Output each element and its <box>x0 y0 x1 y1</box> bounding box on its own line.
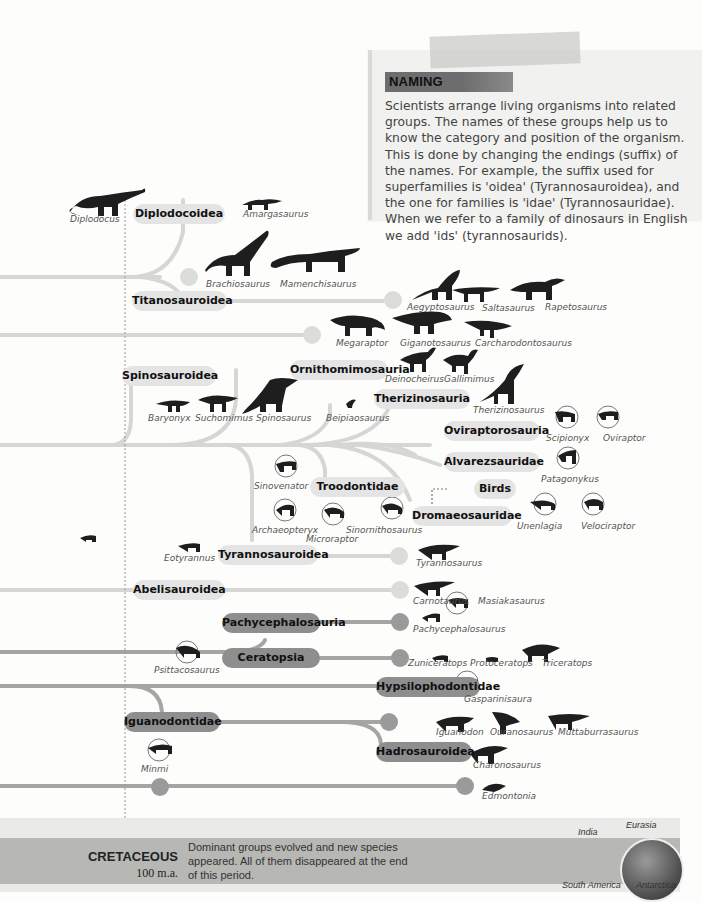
species-amargasaurus: Amargasaurus <box>243 209 308 219</box>
species-therizinosaurus: Therizinosaurus <box>473 405 544 415</box>
species-carcharodontosaurus: Carcharodontosaurus <box>475 338 572 348</box>
group-ornithomimosauria: Ornithomimosauria <box>290 360 388 380</box>
species-baryonyx: Baryonyx <box>148 413 191 423</box>
species-patagonykus: Patagonykus <box>541 474 599 484</box>
species-zuniceratops: Zuniceratops <box>408 658 467 668</box>
group-dromaeosauridae: Dromaeosauridae <box>412 506 512 526</box>
species-muttaburrasaurus: Muttaburrasaurus <box>558 727 638 737</box>
group-oviraptorosauria: Oviraptorosauria <box>444 421 540 441</box>
species-beipiaosaurus: Beipiaosaurus <box>326 413 389 423</box>
species-gallimimus: Gallimimus <box>444 374 494 384</box>
species-triceratops: Triceratops <box>542 658 592 668</box>
globe-icon <box>620 838 684 902</box>
species-tyrannosaurus: Tyrannosaurus <box>416 558 482 568</box>
species-suchomimus: Suchomimus <box>195 413 253 423</box>
species-masiakasaurus: Masiakasaurus <box>478 596 545 606</box>
species-megaraptor: Megaraptor <box>336 338 388 348</box>
species-brachiosaurus: Brachiosaurus <box>206 279 270 289</box>
period-age: 100 m.a. <box>0 866 178 881</box>
globe-label-eurasia: Eurasia <box>626 820 657 830</box>
species-edmontonia: Edmontonia <box>482 791 536 801</box>
group-iguanodontidae: Iguanodontidae <box>124 712 220 732</box>
species-mamenchisaurus: Mamenchisaurus <box>280 279 356 289</box>
group-titanosauroidea: Titanosauroidea <box>132 291 227 311</box>
species-giganotosaurus: Giganotosaurus <box>400 338 471 348</box>
group-birds: Birds <box>474 479 516 499</box>
species-gasparinisaura: Gasparinisaura <box>464 694 532 704</box>
group-spinosauroidea: Spinosauroidea <box>122 366 216 386</box>
species-unenlagia: Unenlagia <box>517 521 562 531</box>
group-pachycephalosauria: Pachycephalosauria <box>222 613 320 633</box>
species-rapetosaurus: Rapetosaurus <box>545 302 607 312</box>
group-troodontidae: Troodontidae <box>310 477 405 497</box>
species-diplodocus: Diplodocus <box>70 214 120 224</box>
globe-label-antarctica: Antarctica <box>636 880 676 890</box>
species-aegyptosaurus: Aegyptosaurus <box>407 302 474 312</box>
globe-label-south-america: South America <box>562 880 621 890</box>
naming-note-card: NAMING Scientists arrange living organis… <box>368 50 702 220</box>
species-psittacosaurus: Psittacosaurus <box>154 665 220 675</box>
species-scipionyx: Scipionyx <box>546 433 589 443</box>
globe-label-india: India <box>578 827 598 837</box>
species-spinosaurus: Spinosaurus <box>256 413 311 423</box>
species-deinocheirus: Deinocheirus <box>385 374 444 384</box>
group-ceratopsia: Ceratopsia <box>222 648 320 668</box>
note-title: NAMING <box>385 72 513 92</box>
group-alvarezsauridae: Alvarezsauridae <box>444 452 540 472</box>
group-tyrannosauroidea: Tyrannosauroidea <box>218 545 318 565</box>
species-protoceratops: Protoceratops <box>470 658 533 668</box>
group-hadrosauroidea: Hadrosauroidea <box>376 742 472 762</box>
group-therizinosauria: Therizinosauria <box>374 389 470 409</box>
species-sinornithosaurus: Sinornithosaurus <box>346 525 422 535</box>
species-carnotaurus: Carnotaurus <box>413 596 469 606</box>
period-description: Dominant groups evolved and new species … <box>188 840 408 882</box>
period-name: CRETACEOUS <box>0 849 178 864</box>
species-minmi: Minmi <box>141 764 168 774</box>
species-pachycephalosaurus: Pachycephalosaurus <box>413 624 505 634</box>
species-microraptor: Microraptor <box>306 534 358 544</box>
species-sinovenator: Sinovenator <box>254 481 308 491</box>
species-ouranosaurus: Ouranosaurus <box>490 727 553 737</box>
group-diplodocoidea: Diplodocoidea <box>133 204 225 224</box>
species-iguanodon: Iguanodon <box>436 727 484 737</box>
group-abelisauroidea: Abelisauroidea <box>133 580 225 600</box>
species-oviraptor: Oviraptor <box>603 433 646 443</box>
species-charonosaurus: Charonosaurus <box>473 760 541 770</box>
note-body: Scientists arrange living organisms into… <box>385 98 697 244</box>
tape-decoration <box>429 31 580 68</box>
species-saltasaurus: Saltasaurus <box>482 303 535 313</box>
species-velociraptor: Velociraptor <box>581 521 635 531</box>
species-eotyrannus: Eotyrannus <box>164 553 215 563</box>
